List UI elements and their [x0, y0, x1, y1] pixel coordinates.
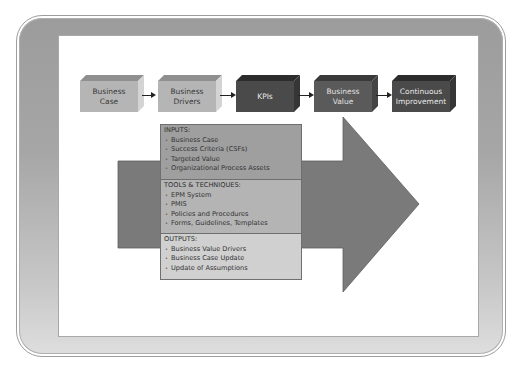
- flow-arrow-icon: [142, 91, 156, 99]
- list-item: Update of Assumptions: [164, 264, 298, 274]
- flow-box-label: Continuous: [400, 87, 442, 97]
- flow-box-label: Improvement: [396, 97, 446, 107]
- list-item: Business Case: [164, 136, 298, 146]
- list-item: PMIS: [164, 200, 298, 210]
- flow-box-label: Business: [170, 87, 203, 97]
- outputs-section: OUTPUTS: Business Value Drivers Business…: [161, 233, 301, 279]
- list-item: Business Value Drivers: [164, 245, 298, 255]
- itto-panel: INPUTS: Business Case Success Criteria (…: [160, 124, 302, 280]
- list-item: Forms, Guidelines, Templates: [164, 219, 298, 229]
- list-item: Targeted Value: [164, 155, 298, 165]
- flow-box-label: Business: [326, 87, 359, 97]
- list-item: EPM System: [164, 191, 298, 201]
- tools-title: TOOLS & TECHNIQUES:: [164, 181, 298, 191]
- inputs-section: INPUTS: Business Case Success Criteria (…: [161, 125, 301, 179]
- flow-box-business-value: Business Value: [314, 81, 372, 112]
- flow-box-label: Value: [333, 97, 354, 107]
- tools-list: EPM System PMIS Policies and Procedures …: [164, 191, 298, 229]
- outputs-list: Business Value Drivers Business Case Upd…: [164, 245, 298, 274]
- list-item: Policies and Procedures: [164, 210, 298, 220]
- flow-box-label: Drivers: [174, 97, 201, 107]
- flow-box-label: Business: [92, 87, 125, 97]
- inputs-list: Business Case Success Criteria (CSFs) Ta…: [164, 136, 298, 174]
- flow-box-business-case: Business Case: [80, 81, 138, 112]
- list-item: Business Case Update: [164, 254, 298, 264]
- list-item: Organizational Process Assets: [164, 164, 298, 174]
- flow-box-business-drivers: Business Drivers: [158, 81, 216, 112]
- outputs-title: OUTPUTS:: [164, 235, 298, 245]
- flow-box-label: KPIs: [257, 92, 273, 102]
- flow-arrow-icon: [220, 91, 236, 99]
- flow-arrow-icon: [298, 91, 314, 99]
- list-item: Success Criteria (CSFs): [164, 145, 298, 155]
- flow-box-label: Case: [100, 97, 118, 107]
- flow-box-continuous-improvement: Continuous Improvement: [392, 81, 450, 112]
- inputs-title: INPUTS:: [164, 126, 298, 136]
- flow-box-kpis: KPIs: [236, 81, 294, 112]
- tools-section: TOOLS & TECHNIQUES: EPM System PMIS Poli…: [161, 179, 301, 233]
- flow-arrow-icon: [376, 91, 392, 99]
